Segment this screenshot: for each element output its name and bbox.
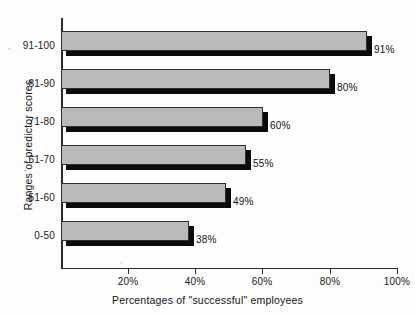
bar-value-label: 91% (374, 44, 395, 55)
category-label: 51-60 (28, 192, 55, 203)
x-axis-tick (262, 268, 263, 274)
bar-value-label: 38% (196, 234, 217, 245)
scan-speck (120, 262, 122, 264)
bar-value-label: 80% (337, 82, 358, 93)
bar-value-label: 60% (270, 120, 291, 131)
x-axis-tick (330, 268, 331, 274)
category-label: 0-50 (34, 230, 55, 241)
bar (61, 31, 367, 51)
category-label: 71-80 (28, 116, 55, 127)
x-axis-tick (195, 268, 196, 274)
bar (61, 183, 226, 203)
bar-value-label: 55% (253, 158, 274, 169)
bar-chart: Ranges of predictor scores 91-100 81-90 … (0, 0, 415, 317)
bar-row (61, 183, 226, 203)
category-label: 91-100 (23, 40, 55, 51)
x-axis-line (61, 268, 398, 269)
bar-row (61, 31, 367, 51)
scan-speck (8, 48, 11, 50)
x-axis-tick-label: 40% (185, 276, 206, 287)
bar-row (61, 107, 263, 127)
bar-row (61, 145, 246, 165)
x-axis-tick (128, 268, 129, 274)
x-axis-title: Percentages of "successful" employees (0, 294, 415, 306)
bar-row (61, 69, 330, 89)
x-axis-tick-label: 80% (320, 276, 341, 287)
scan-speck (24, 170, 27, 172)
category-label: 61-70 (28, 154, 55, 165)
bar-value-label: 49% (233, 196, 254, 207)
category-label: 81-90 (28, 78, 55, 89)
x-axis-tick-label: 20% (118, 276, 139, 287)
bar (61, 145, 246, 165)
bar (61, 221, 189, 241)
x-axis-tick (397, 268, 398, 274)
bar (61, 107, 263, 127)
x-axis-tick-label: 60% (252, 276, 273, 287)
bar (61, 69, 330, 89)
x-axis-tick-label: 100% (384, 276, 410, 287)
bar-row (61, 221, 189, 241)
